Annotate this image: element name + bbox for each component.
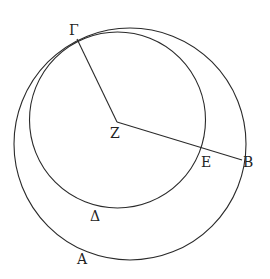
label-epsilon: E	[201, 154, 211, 170]
label-alpha: A	[76, 251, 88, 267]
inner-circle	[30, 32, 206, 208]
label-zeta: Z	[110, 125, 120, 141]
label-delta: Δ	[90, 208, 100, 224]
segment-z-beta	[117, 122, 242, 160]
segment-z-gamma	[77, 39, 117, 122]
geometry-diagram: Γ Z E B Δ A	[0, 0, 270, 279]
label-beta: B	[243, 154, 253, 170]
outer-circle	[14, 28, 246, 260]
label-gamma: Γ	[69, 22, 79, 38]
